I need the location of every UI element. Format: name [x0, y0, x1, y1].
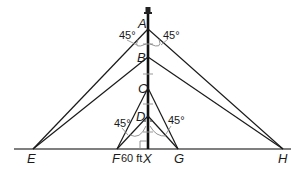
dot-right — [150, 120, 152, 122]
angle-label-bottom-right: 45° — [168, 114, 185, 126]
angle-label-bottom-left: 45° — [114, 117, 131, 129]
right-angle-marker — [140, 141, 147, 149]
tower-diagram: A B C D E F X G H 45° 45° 45° 45° 60 ft — [0, 0, 298, 170]
angle-label-top-right: 45° — [163, 29, 180, 41]
label-H: H — [278, 151, 288, 166]
wire-B-H — [148, 57, 283, 149]
label-G: G — [174, 151, 184, 166]
wire-A-E — [33, 29, 148, 149]
label-C: C — [138, 81, 148, 96]
label-E: E — [27, 151, 36, 166]
angle-arc-bottom-left — [130, 126, 146, 136]
label-B: B — [137, 50, 146, 65]
tower-cap-base — [144, 12, 152, 14]
label-D: D — [136, 109, 145, 124]
angle-arc-top-right — [150, 39, 160, 46]
angle-label-top-left: 45° — [119, 29, 136, 41]
label-X: X — [142, 151, 153, 166]
angle-arc-top-left — [137, 40, 146, 47]
measurement-FX: 60 ft — [121, 152, 142, 164]
label-F: F — [112, 151, 121, 166]
label-A: A — [137, 16, 147, 31]
